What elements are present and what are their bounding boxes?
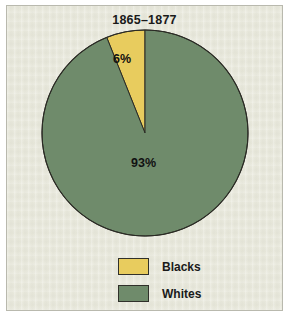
pie-chart-figure: 1865–1877 6% 93% Blacks Whites — [0, 0, 289, 325]
legend-swatch-whites — [118, 285, 149, 302]
legend-item-whites: Whites — [118, 282, 201, 305]
pie-slice-whites — [42, 30, 248, 236]
chart-title: 1865–1877 — [0, 13, 289, 27]
slice-label-blacks: 6% — [113, 52, 131, 66]
legend-label-blacks: Blacks — [162, 261, 201, 273]
chart-legend: Blacks Whites — [118, 255, 201, 309]
legend-item-blacks: Blacks — [118, 255, 201, 278]
slice-label-whites: 93% — [131, 156, 156, 170]
legend-label-whites: Whites — [162, 288, 201, 300]
pie-slice-group — [42, 30, 248, 236]
legend-swatch-blacks — [118, 258, 149, 275]
